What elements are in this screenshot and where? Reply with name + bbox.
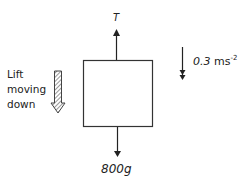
weight-arrow-icon <box>114 127 121 157</box>
motion-label: Lift moving down <box>7 67 46 112</box>
tension-arrow-icon <box>113 29 120 60</box>
motion-label-line: moving <box>7 82 46 97</box>
acceleration-arrow-icon <box>180 47 186 80</box>
body-box <box>84 61 153 127</box>
acceleration-unit: ms <box>214 55 230 68</box>
motion-label-line: Lift <box>7 67 46 82</box>
acceleration-exponent: -2 <box>230 54 237 62</box>
lift-motion-arrow-icon <box>51 71 65 113</box>
tension-label: T <box>113 12 119 23</box>
acceleration-label: 0.3 ms-2 <box>193 54 237 68</box>
weight-label: 800g <box>101 162 132 176</box>
acceleration-value: 0.3 <box>193 55 211 68</box>
motion-label-line: down <box>7 97 46 112</box>
